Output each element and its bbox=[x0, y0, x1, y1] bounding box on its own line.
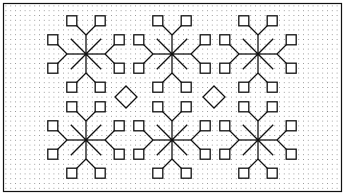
square-stitch bbox=[181, 168, 191, 178]
square-stitch bbox=[134, 35, 144, 45]
square-stitch bbox=[95, 16, 105, 26]
square-stitch bbox=[200, 149, 210, 159]
square-stitch bbox=[114, 35, 124, 45]
square-stitch bbox=[267, 82, 277, 92]
square-stitch bbox=[67, 16, 77, 26]
center-knot bbox=[170, 52, 173, 55]
square-stitch bbox=[114, 63, 124, 73]
square-stitch bbox=[181, 16, 191, 26]
square-stitch bbox=[239, 82, 249, 92]
square-stitch bbox=[134, 63, 144, 73]
square-stitch bbox=[267, 102, 277, 112]
square-stitch bbox=[286, 149, 296, 159]
blackwork-pattern-chart bbox=[0, 0, 349, 195]
square-stitch bbox=[134, 121, 144, 131]
center-knot bbox=[84, 138, 87, 141]
square-stitch bbox=[48, 35, 58, 45]
square-stitch bbox=[200, 35, 210, 45]
square-stitch bbox=[181, 102, 191, 112]
square-stitch bbox=[95, 82, 105, 92]
square-stitch bbox=[48, 149, 58, 159]
square-stitch bbox=[220, 35, 230, 45]
square-stitch bbox=[239, 16, 249, 26]
square-stitch bbox=[239, 102, 249, 112]
square-stitch bbox=[220, 121, 230, 131]
square-stitch bbox=[153, 82, 163, 92]
square-stitch bbox=[67, 82, 77, 92]
square-stitch bbox=[286, 63, 296, 73]
square-stitch bbox=[200, 121, 210, 131]
square-stitch bbox=[286, 121, 296, 131]
square-stitch bbox=[220, 63, 230, 73]
center-knot bbox=[84, 52, 87, 55]
square-stitch bbox=[200, 63, 210, 73]
square-stitch bbox=[153, 16, 163, 26]
square-stitch bbox=[48, 63, 58, 73]
square-stitch bbox=[67, 102, 77, 112]
square-stitch bbox=[267, 168, 277, 178]
square-stitch bbox=[114, 149, 124, 159]
center-knot bbox=[256, 138, 259, 141]
center-knot bbox=[170, 138, 173, 141]
dot-grid bbox=[4, 4, 342, 192]
square-stitch bbox=[153, 168, 163, 178]
square-stitch bbox=[239, 168, 249, 178]
square-stitch bbox=[48, 121, 58, 131]
square-stitch bbox=[134, 149, 144, 159]
square-stitch bbox=[267, 16, 277, 26]
square-stitch bbox=[114, 121, 124, 131]
square-stitch bbox=[95, 168, 105, 178]
square-stitch bbox=[95, 102, 105, 112]
square-stitch bbox=[67, 168, 77, 178]
center-knot bbox=[256, 52, 259, 55]
square-stitch bbox=[181, 82, 191, 92]
square-stitch bbox=[153, 102, 163, 112]
square-stitch bbox=[286, 35, 296, 45]
square-stitch bbox=[220, 149, 230, 159]
